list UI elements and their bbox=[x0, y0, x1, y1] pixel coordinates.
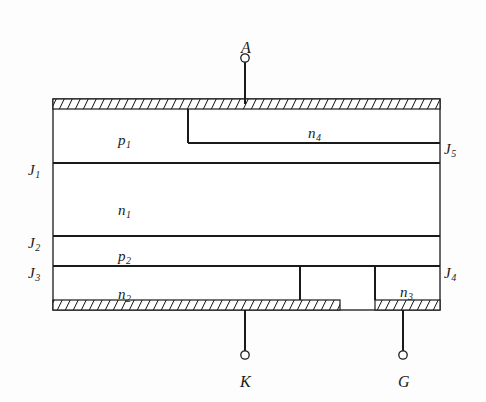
terminal-label-anode: A bbox=[241, 40, 251, 56]
terminal-node-cathode[interactable] bbox=[241, 351, 249, 359]
terminal-node-gate[interactable] bbox=[399, 351, 407, 359]
junction-label-J5: J5 bbox=[444, 142, 456, 159]
layer-label-n4: n4 bbox=[308, 126, 321, 143]
diagram-geometry bbox=[53, 54, 440, 359]
terminal-label-gate: G bbox=[398, 374, 410, 390]
junction-label-J3: J3 bbox=[28, 266, 40, 283]
layer-label-p1: p1 bbox=[118, 133, 131, 150]
junction-label-J1: J1 bbox=[28, 163, 40, 180]
junction-label-J2: J2 bbox=[28, 236, 40, 253]
thyristor-cross-section-diagram bbox=[0, 0, 486, 402]
junction-label-J4: J4 bbox=[444, 266, 456, 283]
anode-electrode bbox=[53, 99, 440, 109]
device-body-outline bbox=[53, 99, 440, 310]
terminal-label-cathode: K bbox=[240, 374, 251, 390]
figure-canvas: p1 n1 p2 n2 n3 n4 J1 J2 J3 J4 J5 A K G bbox=[0, 0, 486, 402]
cathode-electrode bbox=[53, 300, 340, 310]
layer-label-n1: n1 bbox=[118, 203, 131, 220]
layer-label-n3: n3 bbox=[400, 285, 413, 302]
layer-label-n2: n2 bbox=[118, 287, 131, 304]
layer-label-p2: p2 bbox=[118, 249, 131, 266]
